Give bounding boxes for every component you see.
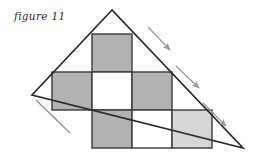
cell-r2-c3 [172, 110, 212, 148]
diagram-svg [0, 0, 260, 161]
cell-r1-c1 [92, 72, 132, 110]
figure-canvas: figure 11 [0, 0, 260, 161]
fold-arrow-1 [148, 27, 170, 50]
cell-r1-c2 [132, 72, 172, 110]
fold-arrow-2 [176, 66, 199, 88]
cell-r0-c1 [92, 34, 132, 72]
